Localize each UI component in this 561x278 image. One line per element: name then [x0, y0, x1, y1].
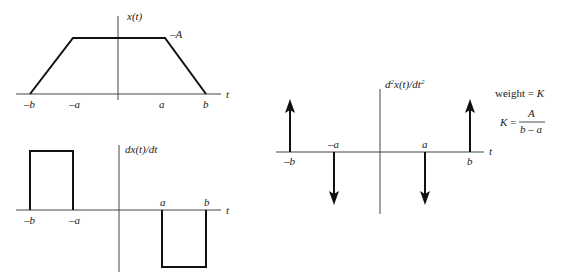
positive-pulse: [30, 151, 73, 210]
k-denominator: b – a: [520, 123, 543, 135]
impulse-down-minus-a: [329, 152, 339, 205]
plot-second-derivative: d2x(t)/dt2 t –b b –a a: [276, 78, 493, 214]
tick-minus-b: –b: [23, 214, 36, 226]
k-numerator: A: [527, 107, 535, 119]
t-axis-label: t: [226, 204, 230, 216]
plot-x-of-t: x(t) –A t –b –a a b: [16, 10, 230, 110]
tick-a: a: [422, 138, 428, 150]
t-axis-label: t: [489, 145, 493, 157]
tick-minus-a: –a: [68, 98, 81, 110]
y-axis-label: dx(t)/dt: [125, 143, 158, 156]
plot-first-derivative: dx(t)/dt t –b –a a b: [16, 143, 230, 272]
y-axis-label: x(t): [126, 10, 143, 23]
weight-label: weight = K: [495, 87, 545, 99]
tick-b: b: [467, 155, 473, 167]
tick-minus-b: –b: [283, 155, 296, 167]
tick-b: b: [204, 196, 210, 208]
tick-minus-b: –b: [23, 98, 36, 110]
amplitude-label: –A: [169, 28, 183, 40]
k-formula-lhs: K =: [499, 116, 516, 128]
signal-derivative-diagram: x(t) –A t –b –a a b dx(t)/dt t –b –a a b: [0, 0, 561, 278]
tick-b: b: [203, 98, 209, 110]
tick-a: a: [159, 98, 165, 110]
impulse-up-minus-b: [285, 99, 295, 152]
tick-minus-a: –a: [68, 214, 81, 226]
y-axis-label: d2x(t)/dt2: [385, 78, 425, 91]
impulse-down-a: [420, 152, 430, 205]
tick-minus-a: –a: [327, 138, 340, 150]
tick-a: a: [160, 196, 166, 208]
impulse-up-b: [465, 99, 475, 152]
t-axis-label: t: [226, 88, 230, 100]
negative-pulse: [162, 210, 206, 267]
weight-annotation: weight = K K = A b – a: [495, 87, 545, 135]
